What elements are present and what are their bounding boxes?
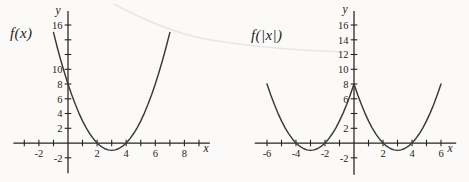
x-tick-label: -4 (292, 148, 301, 159)
y-tick-label: 8 (57, 79, 62, 90)
x-tick-label: 8 (182, 148, 187, 159)
x-tick-label: 2 (380, 148, 385, 159)
y-axis-letter: y (54, 4, 61, 17)
y-tick-label: -2 (340, 153, 349, 164)
y-tick-label: 8 (343, 79, 348, 90)
y-tick-label: 12 (338, 49, 349, 60)
y-tick-label: 16 (52, 20, 63, 31)
x-tick-label: -2 (35, 148, 44, 159)
x-axis-letter: x (202, 142, 209, 154)
y-tick-label: 14 (338, 35, 349, 46)
fx-function-label: f(x) (10, 25, 32, 42)
y-tick-label: 2 (57, 123, 62, 134)
y-tick-label: 6 (57, 94, 62, 105)
graphs-svg: -22468-224681016xy-6-4-2246-226810121416… (0, 0, 469, 182)
x-axis-letter: x (446, 142, 453, 154)
figure-canvas: -22468-224681016xy-6-4-2246-226810121416… (0, 0, 469, 182)
scan-artifact-swoosh (114, 4, 342, 52)
y-tick-label: 10 (52, 64, 63, 75)
x-tick-label: 4 (124, 148, 130, 159)
x-tick-label: -2 (321, 148, 330, 159)
chart-fabsx: -6-4-2246-226810121416xy (255, 3, 457, 175)
y-tick-label: 2 (343, 123, 348, 134)
curve-fx (54, 32, 170, 150)
y-tick-label: 16 (338, 20, 349, 31)
y-tick-label: -2 (54, 153, 63, 164)
x-tick-label: -6 (263, 148, 272, 159)
x-tick-label: 6 (438, 148, 443, 159)
x-tick-label: 4 (409, 148, 415, 159)
y-tick-label: 10 (338, 64, 349, 75)
fabsx-function-label: f(|x|) (251, 27, 282, 44)
y-tick-label: 4 (57, 108, 63, 119)
y-axis-letter: y (341, 3, 348, 16)
x-tick-label: 6 (153, 148, 158, 159)
chart-fx: -22468-224681016xy (13, 4, 210, 173)
x-tick-label: 2 (94, 148, 99, 159)
